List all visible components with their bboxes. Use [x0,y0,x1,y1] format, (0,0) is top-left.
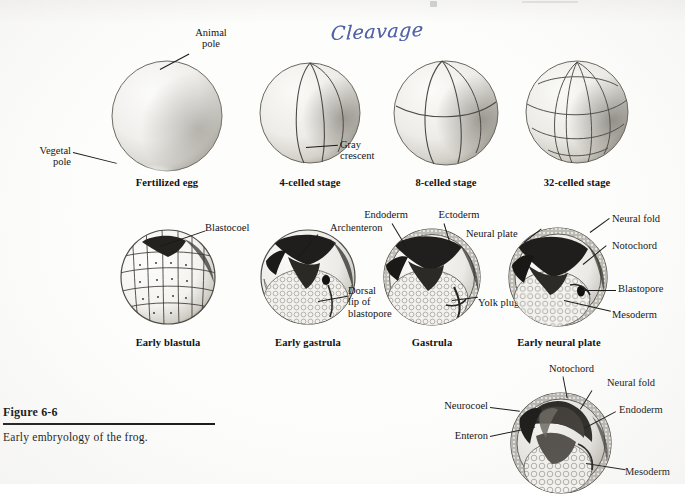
caption-32-celled: 32-celled stage [518,177,636,188]
stage-neurula [506,390,616,494]
label-neural-fold-mid: Neural fold [612,213,660,224]
label-mesoderm-bottom: Mesoderm [625,466,670,477]
figure-caption-block: Figure 6-6 Early embryology of the frog. [3,405,219,443]
early-neural-plate-drawing [504,225,612,329]
label-animal-pole-line2: pole [202,38,220,49]
thirtytwo-celled-drawing [524,58,630,166]
leader-blastopore-mid [580,290,616,291]
label-endoderm-gastrula: Endoderm [356,209,416,220]
caption-gastrula: Gastrula [378,337,486,348]
gastrula-drawing [380,227,484,327]
stage-32-celled [524,58,630,166]
label-neural-plate: Neural plate [466,228,518,239]
label-enteron: Enteron [430,430,488,441]
label-vegetal-pole-line1: Vegetal [40,145,72,156]
stage-early-neural-plate [504,225,612,329]
stage-fertilized-egg [110,58,224,174]
label-gray-crescent-line2: crescent [340,150,374,161]
handwritten-note-cleavage: Cleavage [330,18,424,44]
stage-gastrula [380,227,484,327]
label-ectoderm-gastrula: Ectoderm [430,209,488,220]
label-gray-crescent: Gray crescent [340,139,398,162]
scan-artifact-smudge [522,1,578,3]
eight-celled-drawing [392,58,500,168]
label-animal-pole-line1: Animal [195,27,227,38]
caption-early-blastula: Early blastula [114,337,222,348]
label-dorsal-line2: lip of [348,296,370,307]
caption-early-neural-plate: Early neural plate [500,337,618,348]
figure-number: Figure 6-6 [3,405,219,420]
caption-fertilized-egg: Fertilized egg [110,177,224,188]
label-notochord-bottom: Notochord [549,363,594,374]
stage-8-celled [392,58,500,168]
stage-early-gastrula [258,227,358,327]
fertilized-egg-drawing [110,58,224,174]
label-blastocoel: Blastocoel [205,222,249,233]
label-vegetal-pole: Vegetal pole [16,145,71,168]
figure-rule [3,423,215,425]
label-animal-pole: Animal pole [185,27,237,50]
label-gray-crescent-line1: Gray [340,139,361,150]
neurula-drawing [506,390,616,494]
label-endoderm-bottom: Endoderm [619,404,663,415]
label-blastopore-mid: Blastopore [618,283,664,294]
label-archenteron: Archenteron [330,222,382,233]
figure-caption-text: Early embryology of the frog. [3,431,219,443]
caption-8-celled: 8-celled stage [388,177,504,188]
caption-4-celled: 4-celled stage [252,177,368,188]
label-dorsal-line1: Dorsal [348,285,376,296]
label-mesoderm-mid: Mesoderm [612,309,657,320]
scan-artifact-speck [430,1,437,7]
label-neurocoel: Neurocoel [424,400,488,411]
caption-early-gastrula: Early gastrula [254,337,362,348]
early-gastrula-drawing [258,227,358,327]
label-vegetal-pole-line2: pole [53,156,71,167]
label-notochord-mid: Notochord [612,240,657,251]
label-neural-fold-bottom: Neural fold [607,377,655,388]
